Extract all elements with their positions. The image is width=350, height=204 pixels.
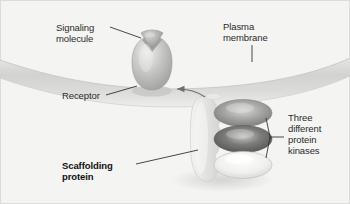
label-receptor: Receptor	[62, 90, 100, 101]
label-scaffolding-protein: Scaffolding protein	[62, 160, 113, 182]
protein-kinase-middle	[214, 126, 272, 153]
label-protein-kinases: Three different protein kinases	[288, 112, 321, 156]
protein-kinase-top	[214, 100, 272, 127]
cell-signaling-figure: Signaling molecule Plasma membrane Recep…	[0, 0, 350, 204]
diagram-canvas	[0, 0, 350, 204]
protein-kinase-bottom	[214, 152, 272, 179]
label-signaling-molecule: Signaling molecule	[56, 22, 94, 44]
label-plasma-membrane: Plasma membrane	[223, 21, 268, 43]
